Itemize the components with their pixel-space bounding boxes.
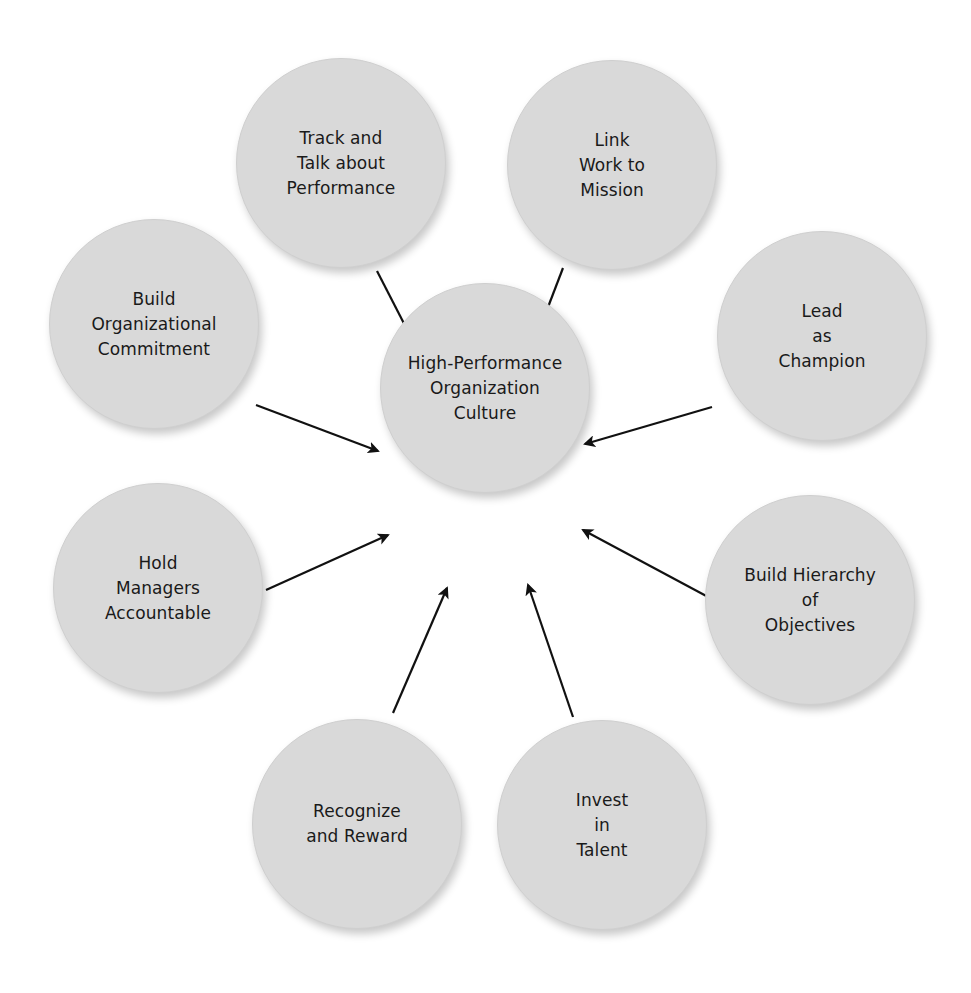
node-label: Link Work to Mission: [579, 128, 645, 203]
node-label: Build Hierarchy of Objectives: [744, 563, 876, 638]
node-build-hierarchy: Build Hierarchy of Objectives: [705, 495, 915, 705]
node-track-performance: Track and Talk about Performance: [236, 58, 446, 268]
node-hold-managers: Hold Managers Accountable: [53, 483, 263, 693]
node-recognize-reward: Recognize and Reward: [252, 719, 462, 929]
node-label: Invest in Talent: [576, 788, 628, 863]
arrow-invest-to-center: [528, 585, 573, 717]
node-label: Hold Managers Accountable: [105, 551, 211, 626]
node-label: Lead as Champion: [778, 299, 865, 374]
arrow-lead-to-center: [585, 407, 712, 444]
center-node: High-Performance Organization Culture: [380, 283, 590, 493]
arrow-hierarchy-to-center: [583, 530, 710, 598]
arrow-hold-to-center: [266, 535, 388, 590]
node-lead-champion: Lead as Champion: [717, 231, 927, 441]
node-label: Recognize and Reward: [306, 799, 408, 849]
node-label: Track and Talk about Performance: [287, 126, 396, 201]
arrow-commitment-to-center: [256, 405, 378, 451]
node-build-commitment: Build Organizational Commitment: [49, 219, 259, 429]
node-invest-talent: Invest in Talent: [497, 720, 707, 930]
arrow-recognize-to-center: [393, 588, 447, 713]
node-link-work-mission: Link Work to Mission: [507, 60, 717, 270]
diagram-canvas: High-Performance Organization Culture Tr…: [0, 0, 971, 993]
center-node-label: High-Performance Organization Culture: [408, 351, 563, 426]
node-label: Build Organizational Commitment: [91, 287, 216, 362]
